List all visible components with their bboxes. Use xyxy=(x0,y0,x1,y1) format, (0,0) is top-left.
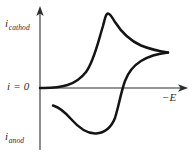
zero-current-label: i = 0 xyxy=(7,81,29,92)
y-axis-anodic-label: ianod xyxy=(5,131,24,142)
anodic-reverse-scan-curve xyxy=(53,53,168,134)
cathodic-forward-scan-curve xyxy=(40,14,168,89)
y-axis-cathodic-label: icathod xyxy=(5,18,29,29)
anodic-symbol: i xyxy=(5,130,8,142)
cyclic-voltammogram-figure: icathod i = 0 ianod −E xyxy=(0,0,195,152)
cathodic-subscript: cathod xyxy=(9,23,30,32)
cathodic-symbol: i xyxy=(5,17,8,29)
anodic-subscript: anod xyxy=(9,136,24,145)
x-axis-potential-label: −E xyxy=(162,92,177,103)
